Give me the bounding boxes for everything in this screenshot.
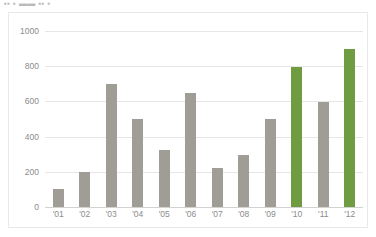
bar-slot [151,31,178,207]
x-axis-tick-label: '06 [178,209,205,219]
bar-slot [204,31,231,207]
y-axis-tick-label: 1000 [20,27,39,36]
bar-03[interactable] [106,84,117,207]
y-axis-tick-label: 800 [25,62,39,71]
cropped-title-fragment: ▪▪ ▪ ▬▬ ▪▪ ▪ [4,0,124,6]
x-axis-tick-label: '01 [45,209,72,219]
bar-10[interactable] [291,67,302,207]
bar-01[interactable] [53,189,64,207]
x-axis-tick-label: '09 [257,209,284,219]
x-axis-line: 0 [45,207,363,208]
x-axis-tick-label: '10 [284,209,311,219]
bar-slot [72,31,99,207]
x-axis-tick-label: '12 [337,209,364,219]
bar-07[interactable] [212,168,223,207]
x-axis-tick-label: '02 [72,209,99,219]
x-axis-tick-label: '04 [125,209,152,219]
y-axis-tick-label: 0 [34,203,39,212]
bar-05[interactable] [159,150,170,207]
bar-09[interactable] [265,119,276,207]
x-axis-tick-label: '03 [98,209,125,219]
plot-area: 02004006008001000 [45,31,363,207]
x-axis-tick-label: '05 [151,209,178,219]
bar-series [45,31,363,207]
bar-slot [284,31,311,207]
bar-12[interactable] [344,49,355,207]
bar-slot [45,31,72,207]
bar-slot [231,31,258,207]
bar-slot [98,31,125,207]
bar-slot [337,31,364,207]
x-axis-tick-label: '08 [231,209,258,219]
bar-slot [125,31,152,207]
x-axis-tick-label: '11 [310,209,337,219]
y-axis-tick-label: 400 [25,132,39,141]
bar-slot [310,31,337,207]
bar-04[interactable] [132,119,143,207]
chart-frame: 02004006008001000 '01'02'03'04'05'06'07'… [8,12,368,228]
bar-02[interactable] [79,172,90,207]
bar-06[interactable] [185,93,196,207]
y-axis-tick-label: 200 [25,168,39,177]
bar-11[interactable] [318,102,329,207]
x-axis-tick-labels: '01'02'03'04'05'06'07'08'09'10'11'12 [45,209,363,219]
y-axis-tick-label: 600 [25,97,39,106]
bar-08[interactable] [238,155,249,207]
x-axis-tick-label: '07 [204,209,231,219]
bar-slot [178,31,205,207]
bar-slot [257,31,284,207]
